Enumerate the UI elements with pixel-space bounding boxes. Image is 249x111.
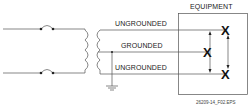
wire-label-grounded: GROUNDED — [121, 42, 163, 49]
terminal-marker-middle: X — [203, 45, 212, 60]
wire-label-ungrounded-bottom: UNGROUNDED — [115, 64, 167, 71]
terminal-marker-top: X — [221, 23, 230, 38]
terminal-marker-bottom: X — [221, 67, 230, 82]
figure-id: 26209-14_F02.EPS — [196, 100, 236, 105]
wire-label-ungrounded-top: UNGROUNDED — [115, 20, 167, 27]
equipment-label: EQUIPMENT — [190, 3, 233, 10]
